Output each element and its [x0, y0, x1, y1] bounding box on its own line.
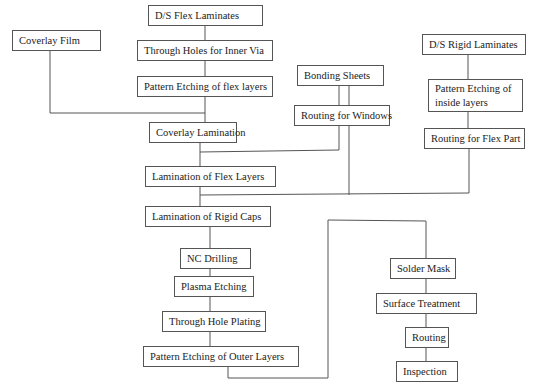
- node-bonding-sheets: Bonding Sheets: [297, 65, 384, 86]
- node-nc-drilling: NC Drilling: [180, 248, 251, 269]
- node-label: Plasma Etching: [181, 280, 247, 294]
- node-label: Lamination of Flex Layers: [152, 170, 264, 184]
- node-inspection: Inspection: [396, 361, 458, 382]
- node-label: D/S Flex Laminates: [155, 9, 239, 23]
- node-pattern-etching-inside: Pattern Etching of inside layers: [428, 79, 523, 112]
- node-label: Through Holes for Inner Via: [144, 44, 264, 58]
- node-through-hole-plating: Through Hole Plating: [162, 311, 266, 332]
- node-routing-for-windows: Routing for Windows: [294, 105, 390, 126]
- node-label: NC Drilling: [187, 252, 237, 266]
- flowchart-canvas: D/S Flex Laminates Coverlay Film Through…: [0, 0, 535, 387]
- node-lamination-rigid-caps: Lamination of Rigid Caps: [145, 206, 271, 227]
- node-label: D/S Rigid Laminates: [429, 38, 518, 52]
- node-through-holes-inner-via: Through Holes for Inner Via: [137, 40, 273, 61]
- node-label: Coverlay Film: [19, 34, 80, 48]
- node-ds-rigid-laminates: D/S Rigid Laminates: [422, 34, 526, 55]
- node-label: Pattern Etching of flex layers: [144, 80, 267, 94]
- node-pattern-etching-flex: Pattern Etching of flex layers: [137, 76, 273, 97]
- node-label: Lamination of Rigid Caps: [152, 210, 261, 224]
- node-routing-for-flex-part: Routing for Flex Part: [424, 128, 525, 149]
- node-plasma-etching: Plasma Etching: [174, 276, 254, 297]
- node-surface-treatment: Surface Treatment: [376, 293, 477, 314]
- node-pattern-etching-outer: Pattern Etching of Outer Layers: [143, 346, 299, 367]
- node-coverlay-lamination: Coverlay Lamination: [149, 122, 237, 143]
- node-lamination-flex-layers: Lamination of Flex Layers: [145, 166, 276, 187]
- node-label: Pattern Etching of Outer Layers: [150, 350, 284, 364]
- node-label: Pattern Etching of inside layers: [435, 82, 516, 109]
- node-label: Surface Treatment: [383, 297, 460, 311]
- node-label: Bonding Sheets: [304, 69, 370, 83]
- node-label: Inspection: [403, 365, 447, 379]
- node-routing: Routing: [405, 327, 449, 348]
- node-label: Solder Mask: [397, 262, 450, 276]
- node-solder-mask: Solder Mask: [390, 258, 456, 279]
- node-ds-flex-laminates: D/S Flex Laminates: [148, 5, 263, 26]
- node-label: Coverlay Lamination: [156, 126, 246, 140]
- node-label: Through Hole Plating: [169, 315, 261, 329]
- node-label: Routing: [412, 331, 446, 345]
- node-label: Routing for Flex Part: [431, 132, 521, 146]
- node-label: Routing for Windows: [301, 109, 392, 123]
- node-coverlay-film: Coverlay Film: [12, 30, 101, 51]
